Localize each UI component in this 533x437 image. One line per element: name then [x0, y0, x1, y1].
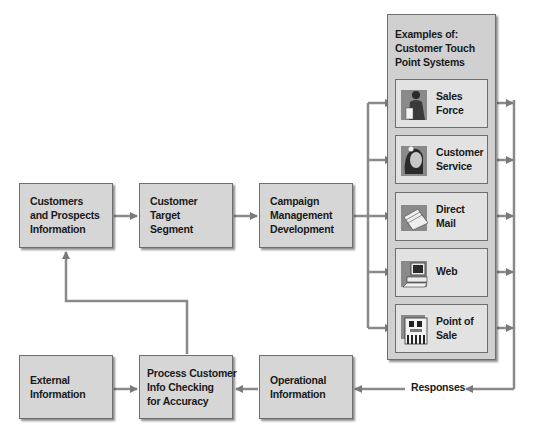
storefront-icon: [401, 313, 429, 345]
headset-agent-icon: [401, 144, 429, 176]
label-line: Customer: [436, 145, 483, 159]
box-label: Segment: [150, 222, 232, 236]
touch-point-label: Web: [436, 264, 457, 278]
box-label: Process Customer: [147, 366, 232, 380]
touch-point-direct-mail: Direct Mail: [395, 192, 488, 241]
box-label: Management: [270, 208, 352, 222]
box-label: Information: [30, 387, 112, 401]
label-line: Force: [436, 103, 464, 117]
title-line: Examples of:: [395, 27, 475, 41]
box-label: External: [30, 373, 112, 387]
title-line: Point Systems: [395, 55, 475, 69]
label-line: Mail: [436, 216, 465, 230]
box-label: Customer: [150, 194, 232, 208]
computer-icon: [401, 257, 429, 289]
touch-point-label: Direct Mail: [436, 202, 465, 230]
touch-point-web: Web: [395, 248, 488, 297]
box-label: Development: [270, 222, 352, 236]
box-label: Operational: [270, 373, 352, 387]
touch-point-label: Sales Force: [436, 89, 464, 117]
touch-point-point-of-sale: Point of Sale: [395, 304, 488, 353]
salesperson-icon: [401, 88, 429, 120]
label-line: Service: [436, 159, 483, 173]
title-line: Customer Touch: [395, 41, 475, 55]
envelopes-icon: [401, 201, 429, 233]
box-label: Campaign: [270, 194, 352, 208]
box-label: for Accuracy: [147, 394, 232, 408]
box-label: Information: [270, 387, 352, 401]
customer-target-segment-box: Customer Target Segment: [139, 183, 233, 248]
customers-prospects-info-box: Customers and Prospects Information: [19, 183, 113, 248]
touch-point-label: Point of Sale: [436, 314, 473, 342]
operational-information-box: Operational Information: [259, 355, 353, 419]
label-line: Sale: [436, 328, 473, 342]
touch-point-title: Examples of: Customer Touch Point System…: [395, 27, 475, 69]
label-line: Web: [436, 264, 457, 278]
box-label: Target: [150, 208, 232, 222]
label-line: Sales: [436, 89, 464, 103]
touch-point-sales-force: Sales Force: [395, 79, 488, 128]
campaign-management-box: Campaign Management Development: [259, 183, 353, 248]
responses-label: Responses: [411, 381, 465, 393]
box-label: and Prospects: [30, 208, 112, 222]
box-label: Customers: [30, 194, 112, 208]
label-line: Direct: [436, 202, 465, 216]
box-label: Information: [30, 222, 112, 236]
box-label: Info Checking: [147, 380, 232, 394]
label-line: Point of: [436, 314, 473, 328]
touch-point-customer-service: Customer Service: [395, 135, 488, 184]
touch-point-label: Customer Service: [436, 145, 483, 173]
touch-point-systems-panel: Examples of: Customer Touch Point System…: [387, 14, 496, 360]
external-information-box: External Information: [19, 355, 113, 419]
process-customer-info-box: Process Customer Info Checking for Accur…: [139, 355, 233, 419]
